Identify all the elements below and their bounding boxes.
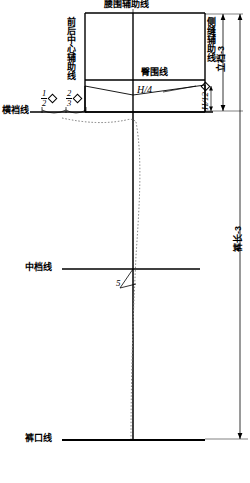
back-crotch-extension-dimension: 2 3 xyxy=(66,89,81,108)
hem-line-label: 裤口线 xyxy=(25,434,52,443)
crotch-seam-dotted-curve xyxy=(62,118,136,123)
fraction-denominator: 2 xyxy=(41,99,47,108)
front-crotch-extension-dimension: 1 2 xyxy=(41,89,56,108)
waist-aux-line-label: 腰围辅助线 xyxy=(104,0,149,9)
knee-offset-label: 5 xyxy=(116,279,121,288)
pattern-diagram-canvas: 腰围辅助线 前后中心辅助线 侧缝辅助线 臀围线 H/4 H/12 立裆-3 裤长… xyxy=(0,0,250,483)
rise-dimension-label: 立裆-3 xyxy=(217,46,226,72)
fraction-two-thirds: 2 3 xyxy=(66,89,72,108)
pant-length-arrow-top xyxy=(238,14,243,20)
fraction-denominator: 3 xyxy=(66,99,72,108)
pant-length-arrow-bottom xyxy=(238,433,243,439)
mid-thigh-line-label: 中档线 xyxy=(25,263,52,272)
hip-quarter-leader xyxy=(163,86,196,92)
rise-dim-arrow-top xyxy=(221,14,226,20)
diamond-icon xyxy=(200,82,210,92)
pant-length-dimension-label: 裤长-3 xyxy=(234,226,243,252)
diamond-icon xyxy=(72,93,82,103)
front-crotch-slant xyxy=(85,86,133,95)
fraction-one-half: 1 2 xyxy=(41,89,47,108)
hip-twelfth-label: H/12 xyxy=(200,92,210,110)
diamond-icon xyxy=(47,93,57,103)
hip-quarter-label: H/4 xyxy=(137,85,152,95)
hip-twelfth-dimension: H/12 xyxy=(200,84,210,111)
hip-line-label: 臀围线 xyxy=(141,68,168,77)
side-seam-aux-line-label: 侧缝辅助线 xyxy=(206,17,215,87)
rise-dim-arrow-bottom xyxy=(221,105,226,111)
crotch-line-label: 横裆线 xyxy=(2,106,29,115)
